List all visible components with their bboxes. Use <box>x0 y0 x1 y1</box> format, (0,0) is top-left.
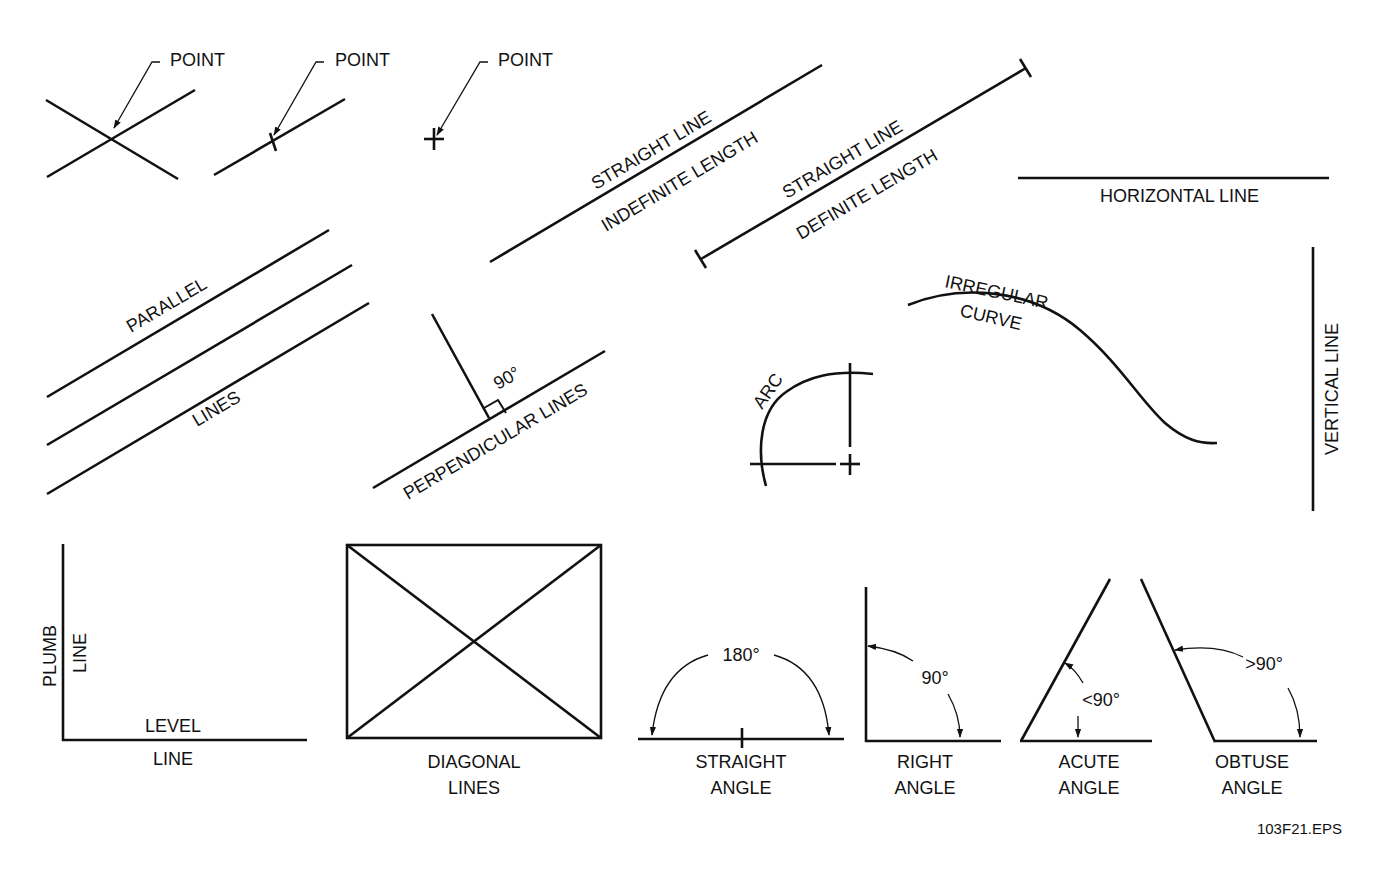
perpendicular-angle-label: 90° <box>490 363 524 394</box>
plumb-label-2: LINE <box>70 633 90 673</box>
level-label-2: LINE <box>153 749 193 769</box>
perpendicular-lines-group: 90° PERPENDICULAR LINES <box>373 314 605 503</box>
irregular-curve-label-top: IRREGULAR <box>943 271 1050 312</box>
definite-endcap-left <box>695 250 706 268</box>
figure-id-label: 103F21.EPS <box>1257 820 1342 837</box>
arc-label: ARC <box>749 370 787 413</box>
obtuse-angle-arrow-top-icon <box>1175 648 1243 657</box>
straight-angle-degree: 180° <box>722 645 759 665</box>
definite-label-2: DEFINITE LENGTH <box>793 145 941 243</box>
right-angle-group: 90° RIGHT ANGLE <box>865 587 1001 798</box>
diagonal-label-2: LINES <box>448 778 500 798</box>
obtuse-angle-label-1: OBTUSE <box>1215 752 1289 772</box>
irregular-curve-group: IRREGULAR CURVE <box>908 271 1217 443</box>
point-label-3: POINT <box>498 50 553 70</box>
plumb-label-1: PLUMB <box>40 625 60 687</box>
straight-line-indefinite-group: STRAIGHT LINE INDEFINITE LENGTH <box>490 65 822 262</box>
obtuse-angle-slanted <box>1141 579 1215 742</box>
plumb-level-group: PLUMB LINE LEVEL LINE <box>40 544 307 769</box>
acute-angle-label-2: ANGLE <box>1058 778 1119 798</box>
leader-arrow-icon <box>114 62 160 128</box>
obtuse-angle-label-2: ANGLE <box>1221 778 1282 798</box>
point-tick-group: POINT <box>214 50 390 175</box>
right-angle-label-1: RIGHT <box>897 752 953 772</box>
arc-group: ARC <box>749 363 873 486</box>
parallel-line-3 <box>47 303 369 494</box>
horizontal-line-group: HORIZONTAL LINE <box>1018 178 1329 206</box>
definite-endcap-right <box>1020 59 1031 77</box>
irregular-curve <box>908 293 1217 444</box>
obtuse-angle-degree: >90° <box>1245 654 1283 674</box>
point-cross-group: POINT <box>424 50 553 150</box>
acute-angle-arrow-top-icon <box>1065 663 1083 683</box>
diagonal-lines-group: DIAGONAL LINES <box>347 545 601 798</box>
perpendicular-line <box>432 314 489 418</box>
obtuse-angle-group: >90° OBTUSE ANGLE <box>1141 579 1317 798</box>
parallel-lines-group: PARALLEL LINES <box>47 230 369 494</box>
point-tick-line <box>214 99 345 175</box>
definite-line <box>701 68 1026 259</box>
point-intersection-group: POINT <box>46 50 225 179</box>
leader-arrow-icon <box>274 62 324 135</box>
parallel-line-1 <box>47 230 329 397</box>
vertical-line-group: VERTICAL LINE <box>1313 247 1342 511</box>
acute-angle-group: <90° ACUTE ANGLE <box>1020 579 1152 798</box>
leader-arrow-icon <box>437 62 488 135</box>
vertical-line-label: VERTICAL LINE <box>1322 323 1342 455</box>
point-label-1: POINT <box>170 50 225 70</box>
perpendicular-label: PERPENDICULAR LINES <box>400 379 591 503</box>
straight-angle-group: 180° STRAIGHT ANGLE <box>638 645 844 798</box>
figure-svg: POINT POINT POINT STRAIGHT LINE INDEFINI… <box>0 0 1380 870</box>
point-label-2: POINT <box>335 50 390 70</box>
obtuse-angle-arrow-bottom-icon <box>1288 688 1300 737</box>
acute-angle-slanted <box>1021 579 1110 741</box>
horizontal-line-label: HORIZONTAL LINE <box>1100 186 1259 206</box>
acute-angle-degree: <90° <box>1082 690 1120 710</box>
straight-line-definite-group: STRAIGHT LINE DEFINITE LENGTH <box>695 59 1031 268</box>
geometry-lines-figure: POINT POINT POINT STRAIGHT LINE INDEFINI… <box>0 0 1380 870</box>
level-label-1: LEVEL <box>145 716 201 736</box>
straight-angle-arrow-right-icon <box>774 655 829 735</box>
right-angle-arrow-bottom-icon <box>948 694 960 737</box>
straight-angle-label-1: STRAIGHT <box>695 752 786 772</box>
perpendicular-base-line <box>373 351 605 488</box>
straight-angle-label-2: ANGLE <box>710 778 771 798</box>
diagonal-label-1: DIAGONAL <box>427 752 520 772</box>
indefinite-line <box>490 65 822 262</box>
right-angle-label-2: ANGLE <box>894 778 955 798</box>
right-angle-degree: 90° <box>921 668 948 688</box>
intersecting-line-b <box>47 90 195 177</box>
straight-angle-arrow-left-icon <box>652 655 708 735</box>
right-angle-arrow-top-icon <box>868 646 913 661</box>
acute-angle-label-1: ACUTE <box>1058 752 1119 772</box>
